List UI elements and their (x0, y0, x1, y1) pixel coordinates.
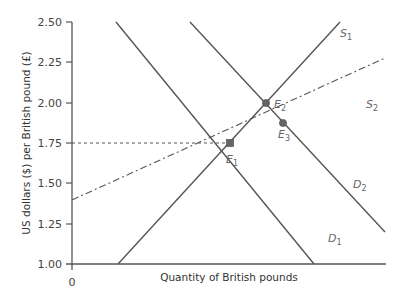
equilibrium-point-e1 (227, 140, 234, 147)
equilibrium-point-e2 (262, 99, 269, 106)
supply-curve-s2 (72, 58, 385, 200)
label-e3: E3 (278, 128, 290, 143)
tick-1.25: 1.25 (38, 218, 63, 231)
y-tick-labels: 2.50 2.25 2.00 1.75 1.50 1.25 1.00 (38, 16, 63, 271)
y-ticks (66, 22, 72, 224)
x-axis-title: Quantity of British pounds (160, 271, 298, 283)
demand-curve-d2 (190, 22, 385, 232)
label-d1: D1 (328, 232, 342, 247)
y-axis-title: US dollars ($) per British pound (£) (20, 51, 32, 234)
exchange-rate-chart: 2.50 2.25 2.00 1.75 1.50 1.25 1.00 0 US … (0, 0, 406, 301)
equilibrium-point-e3 (279, 119, 286, 126)
tick-2.25: 2.25 (38, 56, 63, 69)
label-s2: S2 (366, 98, 378, 113)
tick-1.00: 1.00 (38, 258, 63, 271)
tick-2.00: 2.00 (38, 97, 63, 110)
origin-label: 0 (69, 276, 76, 289)
label-d2: D2 (353, 178, 367, 193)
label-e2: E2 (274, 98, 286, 113)
tick-1.50: 1.50 (38, 177, 63, 190)
tick-1.75: 1.75 (38, 137, 63, 150)
tick-2.50: 2.50 (38, 16, 63, 29)
label-e1: E1 (226, 153, 238, 168)
label-s1: S1 (340, 27, 352, 42)
